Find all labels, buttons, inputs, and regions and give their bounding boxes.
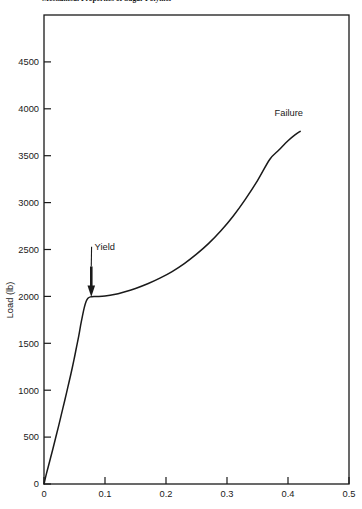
failure-label: Failure [275, 108, 303, 118]
y-axis-tick-labels: 0 500 1000 1500 2000 2500 3000 3500 4000… [18, 57, 39, 489]
load-extension-curve [44, 131, 300, 484]
y-tick-label-5: 2500 [18, 245, 39, 255]
y-axis-ticks [44, 62, 51, 484]
x-tick-label-1: 0.1 [99, 489, 112, 499]
y-tick-label-3: 1500 [18, 339, 39, 349]
x-axis-ticks [44, 477, 349, 484]
y-tick-label-0: 0 [34, 479, 39, 489]
y-tick-label-4: 2000 [18, 292, 39, 302]
y-tick-label-7: 3500 [18, 151, 39, 161]
x-tick-label-5: 0.5 [343, 489, 356, 499]
load-extension-plot: 0 0.1 0.2 0.3 0.4 0.5 0 500 1000 1500 [0, 0, 362, 509]
failure-annotation: Failure [275, 108, 303, 118]
x-tick-label-4: 0.4 [282, 489, 295, 499]
plot-frame [44, 15, 349, 484]
yield-annotation: Yield [87, 242, 114, 297]
y-tick-label-8: 4000 [18, 104, 39, 114]
y-axis-title: Load (lb) [5, 282, 15, 319]
x-tick-label-2: 0.2 [160, 489, 173, 499]
x-axis-tick-labels: 0 0.1 0.2 0.3 0.4 0.5 [41, 489, 355, 499]
chart-figure: Mechanical Properties of Sugar Polymer 0… [0, 0, 362, 509]
x-tick-label-3: 0.3 [221, 489, 234, 499]
yield-label: Yield [95, 242, 115, 252]
yield-arrowhead-icon [87, 285, 95, 297]
y-tick-label-9: 4500 [18, 57, 39, 67]
y-tick-label-1: 500 [23, 432, 39, 442]
x-tick-label-0: 0 [41, 489, 46, 499]
y-tick-label-2: 1000 [18, 386, 39, 396]
y-tick-label-6: 3000 [18, 198, 39, 208]
